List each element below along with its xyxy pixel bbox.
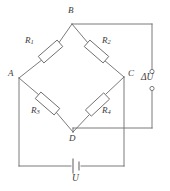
resistor-label-r2-sub: 2: [108, 38, 111, 45]
resistor-label-r3-sub: 3: [37, 108, 40, 115]
node-label-c: C: [128, 69, 134, 78]
node-label-b: B: [68, 6, 74, 15]
resistor-label-r4: R4: [102, 106, 111, 116]
branch-d-c: [73, 77, 124, 132]
resistor-r1-body: [38, 40, 63, 63]
source-label-u: U: [72, 174, 79, 184]
branch-b-c: [72, 24, 124, 77]
resistor-label-r2: R2: [102, 36, 111, 46]
resistor-label-r3: R3: [31, 106, 40, 116]
node-label-d: D: [69, 134, 76, 143]
circuit-diagram: B A C D R1 R2 R3 R4 ΔU U: [0, 0, 170, 191]
resistor-label-r1: R1: [25, 36, 34, 46]
node-label-a: A: [8, 69, 14, 78]
branch-a-b: [19, 24, 72, 78]
resistor-label-r1-sub: 1: [31, 38, 34, 45]
source-label-delta-u: ΔU: [141, 73, 153, 83]
terminal-delta-u-bottom[interactable]: [150, 86, 154, 90]
resistor-label-r4-sub: 4: [108, 108, 111, 115]
circuit-schematic-svg: [0, 0, 170, 191]
branch-a-d: [19, 78, 73, 132]
